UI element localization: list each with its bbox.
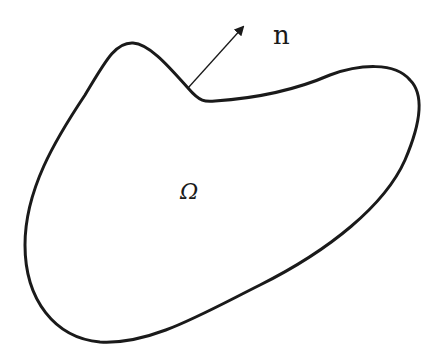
- diagram-canvas: n Ω: [0, 0, 444, 356]
- domain-boundary: [25, 43, 419, 342]
- normal-label: n: [273, 22, 290, 48]
- diagram-svg: [0, 0, 444, 356]
- normal-vector-arrow: [188, 27, 243, 88]
- region-label: Ω: [180, 181, 198, 203]
